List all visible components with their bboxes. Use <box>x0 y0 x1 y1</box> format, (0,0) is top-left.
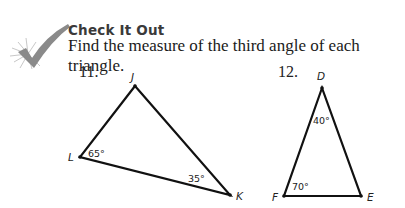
vertex-label-j: J <box>129 71 134 83</box>
vertex-label-f: F <box>272 191 279 203</box>
angle-l: 65° <box>88 148 105 159</box>
triangle-jlk: J L K 65° 35° <box>68 71 244 202</box>
vertex-label-d: D <box>317 70 325 82</box>
angle-d: 40° <box>313 115 330 126</box>
vertex-label-e: E <box>367 191 374 203</box>
angle-f: 70° <box>292 181 309 192</box>
vertex-label-k: K <box>236 190 244 202</box>
triangle-dfe: D F E 40° 70° <box>272 70 374 203</box>
angle-k: 35° <box>188 173 205 184</box>
vertex-label-l: L <box>68 151 74 163</box>
triangle-figures: J L K 65° 35° D F E 40° 70° <box>0 0 405 208</box>
